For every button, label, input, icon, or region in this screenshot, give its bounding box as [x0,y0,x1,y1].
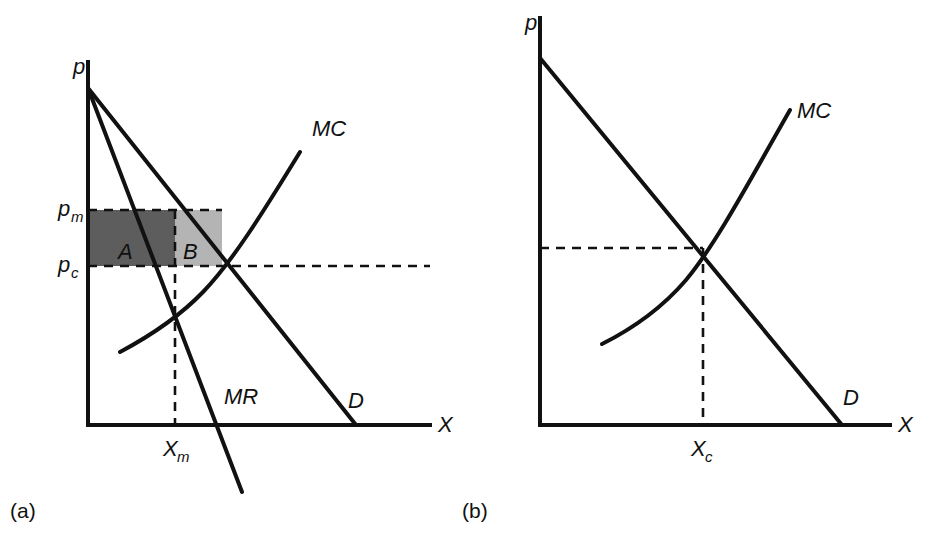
panel-a-y-axis-label: p [72,54,85,79]
panel-a-mc-label: MC [312,116,346,141]
figure-canvas: p X p m p c X m MC MR D A B (a) [0,0,946,547]
panel-a: p X p m p c X m MC MR D A B (a) [10,54,454,522]
region-a-label: A [116,239,133,264]
region-b-label: B [183,239,198,264]
panel-a-x-axis-label: X [437,412,454,437]
panel-b-axes [540,18,890,425]
panel-a-price-competitive-label: p c [57,252,79,281]
panel-a-demand-label: D [348,388,364,413]
panel-b-y-axis-label: p [524,10,537,35]
panel-a-marginal-revenue-curve [88,88,242,492]
panel-b: p X X c MC D (b) [462,10,914,522]
panel-b-caption: (b) [462,499,488,522]
panel-b-quantity-competitive-label: X c [690,436,713,465]
svg-text:m: m [71,208,84,225]
svg-text:p: p [57,196,70,221]
panel-b-x-axis-label: X [897,412,914,437]
panel-a-mr-label: MR [224,384,258,409]
panel-b-marginal-cost-curve [602,110,790,344]
panel-a-caption: (a) [10,499,36,522]
panel-b-demand-label: D [843,385,859,410]
svg-text:c: c [71,264,79,281]
economics-figure: p X p m p c X m MC MR D A B (a) [0,0,946,547]
svg-text:m: m [177,448,190,465]
panel-a-price-monopoly-label: p m [57,196,84,225]
svg-text:c: c [705,448,713,465]
panel-a-quantity-monopoly-label: X m [162,436,190,465]
panel-b-mc-label: MC [797,98,831,123]
svg-text:p: p [57,252,70,277]
